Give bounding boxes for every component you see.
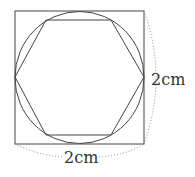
inscribed-hexagon (15, 20, 144, 135)
bottom-dimension-arc-right (96, 144, 144, 157)
inscribed-circle (15, 12, 144, 144)
bottom-dimension-arc-left (15, 144, 64, 157)
bottom-dimension-label: 2cm (64, 150, 98, 166)
right-dimension-label: 2cm (151, 72, 185, 88)
